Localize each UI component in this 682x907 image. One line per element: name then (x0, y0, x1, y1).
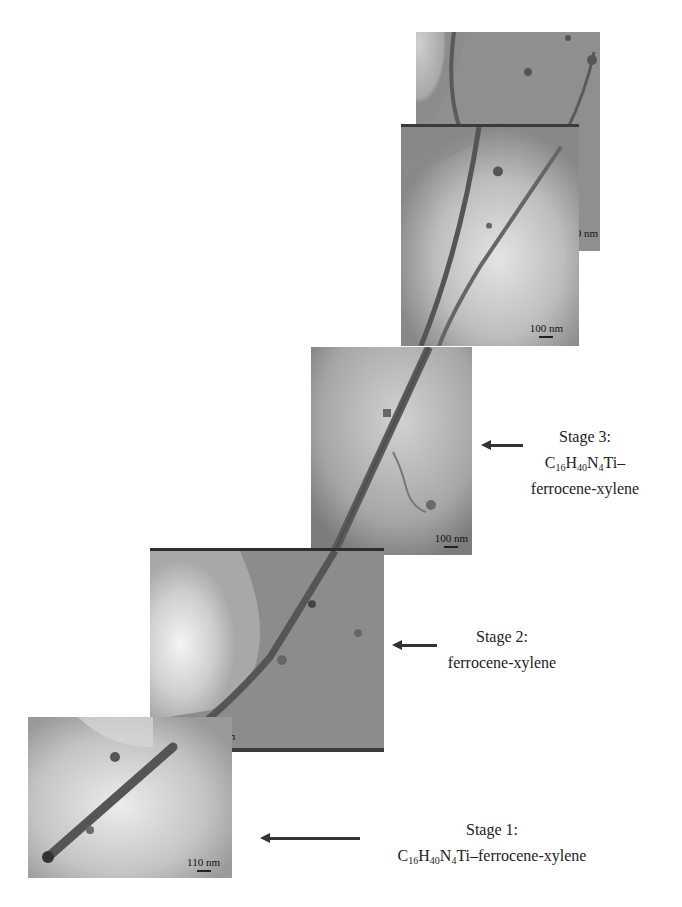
stage-2-title: Stage 2: (432, 624, 572, 650)
stage-3-label: Stage 3: C16H40N4Ti– ferrocene-xylene (522, 424, 648, 502)
tem-figure: 100 nm 100 nm (0, 0, 682, 907)
tem-panel-4: 100 nm (401, 124, 579, 346)
micrograph-1 (28, 717, 232, 878)
stage-3-title: Stage 3: (522, 424, 648, 450)
micrograph-3 (311, 347, 472, 555)
tem-panel-3: 100 nm (311, 347, 472, 555)
stage-2-label: Stage 2: ferrocene-xylene (432, 624, 572, 676)
stage-1-label: Stage 1: C16H40N4Ti–ferrocene-xylene (360, 817, 624, 869)
stage-3-precursor: ferrocene-xylene (522, 476, 648, 502)
scale-bar-label: 100 nm (435, 533, 468, 548)
stage-3-formula: C16H40N4Ti– (522, 450, 648, 476)
stage-3-arrow (489, 444, 523, 447)
micrograph-4 (401, 127, 579, 346)
scale-bar-label: 110 nm (187, 857, 220, 872)
stage-1-formula: C16H40N4Ti–ferrocene-xylene (360, 843, 624, 869)
tem-panel-1: 110 nm (28, 717, 232, 878)
stage-1-arrow (268, 837, 360, 840)
scale-bar-label: 100 nm (530, 323, 563, 338)
stage-2-precursor: ferrocene-xylene (432, 650, 572, 676)
stage-1-title: Stage 1: (360, 817, 624, 843)
